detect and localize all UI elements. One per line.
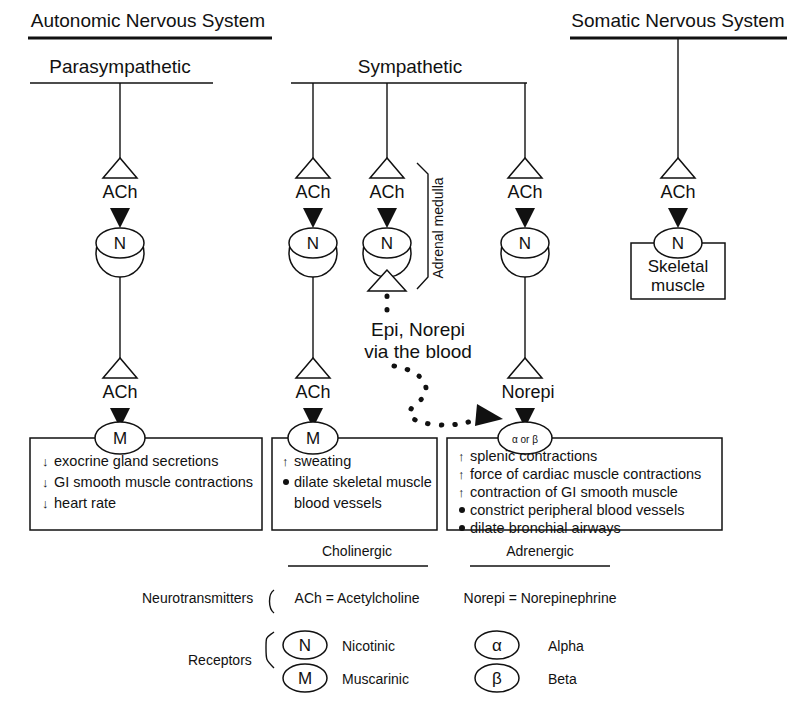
effect-item: sweating xyxy=(294,453,351,469)
label-via-the-blood: via the blood xyxy=(364,341,472,362)
effect-marker-arrow: ↓ xyxy=(42,454,49,469)
effect-item: GI smooth muscle contractions xyxy=(54,474,253,490)
legend-receptor-symbol-beta: β xyxy=(492,669,502,688)
transmitter-arrow-filled xyxy=(377,208,397,228)
effect-marker-arrow: ↓ xyxy=(42,496,49,511)
receptor-symbol-alpha-beta: α or β xyxy=(512,434,538,445)
neurotransmitter-norepi: Norepi xyxy=(501,382,554,402)
neurotransmitter-ach-symp1-post: ACh xyxy=(295,382,330,402)
neurotransmitter-ach-para-post: ACh xyxy=(102,382,137,402)
bloodstream-arrowhead xyxy=(475,404,503,426)
nerve-terminal-triangle xyxy=(296,358,330,378)
legend-receptor-name-nicotinic: Nicotinic xyxy=(342,638,395,654)
nerve-terminal-triangle xyxy=(103,158,137,178)
neurotransmitter-ach-adrenal: ACh xyxy=(369,182,404,202)
effect-item: contraction of GI smooth muscle xyxy=(470,484,678,500)
nerve-terminal-triangle xyxy=(103,358,137,378)
effect-marker-arrow: ↑ xyxy=(458,485,465,500)
effect-marker-dot xyxy=(283,479,289,485)
heading-parasympathetic: Parasympathetic xyxy=(49,56,191,77)
nerve-terminal-triangle xyxy=(370,158,404,178)
effect-marker-arrow: ↑ xyxy=(458,467,465,482)
effect-marker-arrow: ↓ xyxy=(42,475,49,490)
effect-item-continuation: blood vessels xyxy=(294,495,382,511)
heading-autonomic: Autonomic Nervous System xyxy=(31,10,265,31)
adrenal-medulla-bracket xyxy=(417,163,428,289)
label-epi-norepi: Epi, Norepi xyxy=(371,319,465,340)
transmitter-arrow-filled xyxy=(515,208,535,228)
legend-receptor-name-beta: Beta xyxy=(548,671,577,687)
legend-receptor-symbol-alpha: α xyxy=(492,636,502,655)
heading-somatic: Somatic Nervous System xyxy=(571,10,784,31)
nerve-terminal-triangle xyxy=(661,158,695,178)
nerve-terminal-triangle xyxy=(296,158,330,178)
receptor-symbol-nicotinic: N xyxy=(307,234,319,253)
effect-item: splenic contractions xyxy=(470,448,597,464)
neurotransmitter-ach-symp1-pre: ACh xyxy=(295,182,330,202)
legend-receptor-name-alpha: Alpha xyxy=(548,638,584,654)
effect-item: constrict peripheral blood vessels xyxy=(470,502,684,518)
label-skeletal-line1: Skeletal xyxy=(648,257,708,276)
effect-item: heart rate xyxy=(54,495,116,511)
legend-label-neurotransmitters: Neurotransmitters xyxy=(142,590,253,606)
neurotransmitter-ach-somatic: ACh xyxy=(660,182,695,202)
legend-receptor-name-muscarinic: Muscarinic xyxy=(342,671,409,687)
nerve-terminal-triangle xyxy=(508,158,542,178)
nerve-terminal-triangle xyxy=(508,358,542,378)
effect-marker-arrow: ↑ xyxy=(458,449,465,464)
heading-sympathetic: Sympathetic xyxy=(358,56,463,77)
legend-neurotransmitter-norepi: Norepi = Norepinephrine xyxy=(464,590,617,606)
effect-item: dilate skeletal muscle xyxy=(294,474,432,490)
legend-neurotransmitter-ach: ACh = Acetylcholine xyxy=(295,590,420,606)
receptor-symbol-nicotinic: N xyxy=(381,234,393,253)
neurotransmitters-brace xyxy=(270,590,275,613)
neurotransmitter-ach-para-pre: ACh xyxy=(102,182,137,202)
label-adrenal-medulla: Adrenal medulla xyxy=(430,177,446,278)
effect-marker-dot xyxy=(459,507,465,513)
receptor-symbol-nicotinic: N xyxy=(519,234,531,253)
nervous-system-diagram: Autonomic Nervous System Somatic Nervous… xyxy=(0,0,805,715)
effect-marker-arrow: ↑ xyxy=(282,454,289,469)
neurotransmitter-ach-symp3-pre: ACh xyxy=(507,182,542,202)
receptor-symbol-muscarinic: M xyxy=(306,429,320,448)
effect-item: force of cardiac muscle contractions xyxy=(470,466,701,482)
diagram-canvas: Autonomic Nervous System Somatic Nervous… xyxy=(0,0,805,715)
label-skeletal-line2: muscle xyxy=(651,276,705,295)
receptor-symbol-nicotinic: N xyxy=(114,234,126,253)
receptor-symbol-nicotinic: N xyxy=(672,234,684,253)
legend-column-header-adrenergic: Adrenergic xyxy=(506,543,574,559)
legend-receptor-symbol-nicotinic: N xyxy=(299,636,311,655)
bloodstream-dotted-path xyxy=(394,366,480,425)
effect-marker-dot xyxy=(459,525,465,531)
effect-item: dilate bronchial airways xyxy=(470,520,621,536)
receptors-brace xyxy=(266,632,274,668)
transmitter-arrow-filled xyxy=(668,208,688,228)
transmitter-arrow-filled xyxy=(303,208,323,228)
receptor-symbol-muscarinic: M xyxy=(113,429,127,448)
transmitter-arrow-filled xyxy=(110,208,130,228)
legend-label-receptors: Receptors xyxy=(188,652,252,668)
legend-column-header-cholinergic: Cholinergic xyxy=(322,543,392,559)
effect-item: exocrine gland secretions xyxy=(54,453,218,469)
legend-receptor-symbol-muscarinic: M xyxy=(298,669,312,688)
